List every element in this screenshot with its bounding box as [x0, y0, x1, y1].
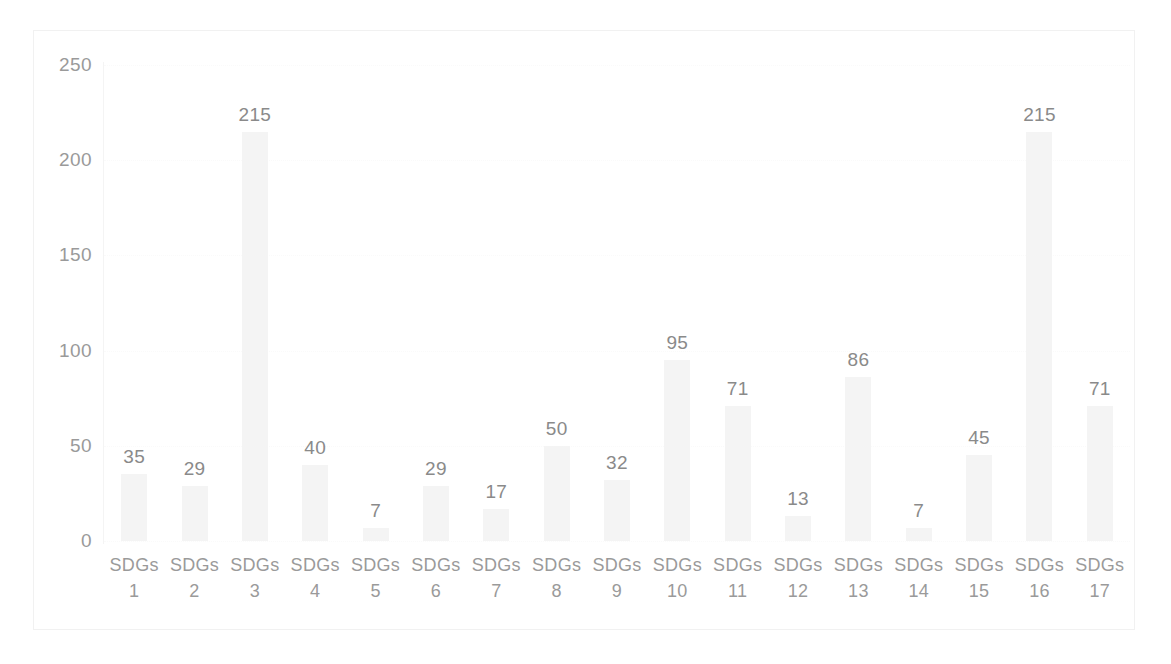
- y-axis-tick-label: 200: [59, 149, 92, 171]
- gridline: [104, 541, 1130, 542]
- y-axis-tick-label: 150: [59, 244, 92, 266]
- bar-value-label: 86: [848, 349, 870, 371]
- x-axis-category-label: SDGs11: [708, 552, 768, 604]
- bar-chart: 050100150200250 352921540729175032957113…: [0, 0, 1171, 664]
- bar[interactable]: [604, 480, 630, 541]
- x-axis-category-name: SDGs: [526, 552, 586, 578]
- y-axis-tick-label: 250: [59, 54, 92, 76]
- bar-value-label: 50: [546, 418, 568, 440]
- bar-value-label: 215: [1023, 104, 1056, 126]
- y-axis-tick-label: 50: [70, 435, 92, 457]
- bar[interactable]: [845, 377, 871, 541]
- bar-slot: 71: [1070, 65, 1130, 541]
- x-axis-category-label: SDGs1: [104, 552, 164, 604]
- bar[interactable]: [302, 465, 328, 541]
- bar[interactable]: [182, 486, 208, 541]
- bar-slot: 95: [647, 65, 707, 541]
- bar-slot: 17: [466, 65, 526, 541]
- x-axis-category-number: 17: [1070, 578, 1130, 604]
- bar[interactable]: [906, 528, 932, 541]
- bar-value-label: 95: [666, 332, 688, 354]
- bar[interactable]: [725, 406, 751, 541]
- x-axis-category-label: SDGs3: [225, 552, 285, 604]
- y-axis-tick-label: 100: [59, 340, 92, 362]
- bar-slot: 35: [104, 65, 164, 541]
- x-axis-category-label: SDGs14: [889, 552, 949, 604]
- x-axis-category-name: SDGs: [466, 552, 526, 578]
- x-axis-category-number: 6: [406, 578, 466, 604]
- x-axis-category-number: 13: [828, 578, 888, 604]
- bar-slot: 215: [225, 65, 285, 541]
- x-axis-category-name: SDGs: [345, 552, 405, 578]
- bar[interactable]: [423, 486, 449, 541]
- x-axis-category-label: SDGs2: [164, 552, 224, 604]
- x-axis-category-label: SDGs6: [406, 552, 466, 604]
- bar-value-label: 7: [370, 500, 381, 522]
- bar[interactable]: [1026, 132, 1052, 541]
- bar-slot: 13: [768, 65, 828, 541]
- bar[interactable]: [966, 455, 992, 541]
- bar-slot: 7: [345, 65, 405, 541]
- bar[interactable]: [544, 446, 570, 541]
- bar-slot: 50: [526, 65, 586, 541]
- bar[interactable]: [242, 132, 268, 541]
- x-axis-category-name: SDGs: [104, 552, 164, 578]
- y-axis-tick-label: 0: [81, 530, 92, 552]
- bar-value-label: 29: [184, 458, 206, 480]
- bar-value-label: 7: [913, 500, 924, 522]
- x-axis-category-name: SDGs: [768, 552, 828, 578]
- bar-value-label: 29: [425, 458, 447, 480]
- bar-slot: 29: [164, 65, 224, 541]
- bar-value-label: 215: [239, 104, 272, 126]
- x-axis-category-number: 14: [889, 578, 949, 604]
- bar[interactable]: [363, 528, 389, 541]
- x-axis-category-number: 12: [768, 578, 828, 604]
- x-axis-category-number: 1: [104, 578, 164, 604]
- x-axis-category-number: 5: [345, 578, 405, 604]
- bar[interactable]: [664, 360, 690, 541]
- x-axis-category-label: SDGs8: [526, 552, 586, 604]
- bar[interactable]: [1087, 406, 1113, 541]
- bar-value-label: 45: [968, 427, 990, 449]
- x-axis-category-number: 8: [526, 578, 586, 604]
- x-axis-category-label: SDGs7: [466, 552, 526, 604]
- x-axis-category-number: 7: [466, 578, 526, 604]
- bar-slot: 215: [1009, 65, 1069, 541]
- x-axis-category-name: SDGs: [225, 552, 285, 578]
- bar-slot: 29: [406, 65, 466, 541]
- x-axis-category-label: SDGs13: [828, 552, 888, 604]
- x-axis-category-number: 3: [225, 578, 285, 604]
- bar[interactable]: [483, 509, 509, 541]
- x-axis-category-number: 16: [1009, 578, 1069, 604]
- bar[interactable]: [121, 474, 147, 541]
- x-axis-category-name: SDGs: [708, 552, 768, 578]
- x-axis-category-label: SDGs17: [1070, 552, 1130, 604]
- x-axis-category-name: SDGs: [828, 552, 888, 578]
- bar[interactable]: [785, 516, 811, 541]
- x-axis-category-label: SDGs16: [1009, 552, 1069, 604]
- bar-value-label: 17: [485, 481, 507, 503]
- x-axis-category-number: 9: [587, 578, 647, 604]
- x-axis-category-label: SDGs9: [587, 552, 647, 604]
- x-axis-category-label: SDGs10: [647, 552, 707, 604]
- x-axis-category-name: SDGs: [889, 552, 949, 578]
- bar-value-label: 13: [787, 488, 809, 510]
- bar-slot: 32: [587, 65, 647, 541]
- bar-slot: 40: [285, 65, 345, 541]
- x-axis-category-label: SDGs15: [949, 552, 1009, 604]
- x-axis-category-number: 2: [164, 578, 224, 604]
- plot-area: 3529215407291750329571138674521571: [104, 65, 1130, 541]
- x-axis-category-name: SDGs: [406, 552, 466, 578]
- bar-slot: 71: [708, 65, 768, 541]
- x-axis-category-name: SDGs: [647, 552, 707, 578]
- x-axis-category-name: SDGs: [164, 552, 224, 578]
- x-axis-category-name: SDGs: [949, 552, 1009, 578]
- x-axis-category-name: SDGs: [1009, 552, 1069, 578]
- x-axis-category-label: SDGs5: [345, 552, 405, 604]
- x-axis-category-number: 10: [647, 578, 707, 604]
- bar-slot: 45: [949, 65, 1009, 541]
- x-axis-category-label: SDGs4: [285, 552, 345, 604]
- bar-slot: 7: [889, 65, 949, 541]
- x-axis-category-number: 11: [708, 578, 768, 604]
- x-axis-category-name: SDGs: [285, 552, 345, 578]
